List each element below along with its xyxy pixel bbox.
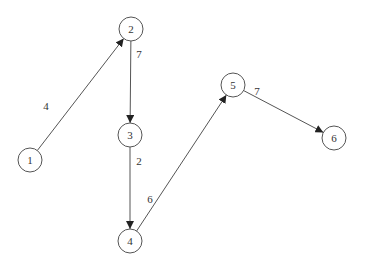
node-5: 5 [221,73,245,97]
node-label: 5 [230,79,236,91]
node-label: 2 [128,23,134,35]
graph-canvas: 47267 123456 [0,0,366,271]
node-3: 3 [118,123,142,147]
edges-layer: 47267 [37,39,323,231]
edge-weight-label: 6 [147,193,153,205]
node-1: 1 [18,148,42,172]
edge-1-2 [37,39,123,151]
edge-weight-label: 4 [43,100,49,112]
node-2: 2 [119,17,143,41]
edge-4-5 [137,95,227,231]
node-label: 4 [127,235,133,247]
edge-5-6 [244,91,324,133]
node-6: 6 [322,126,346,150]
edge-weight-label: 2 [136,155,142,167]
edge-2-3 [130,41,131,123]
node-label: 1 [27,154,33,166]
node-label: 6 [331,132,337,144]
node-label: 3 [127,129,133,141]
edge-weight-label: 7 [254,85,260,97]
nodes-layer: 123456 [18,17,346,253]
node-4: 4 [118,229,142,253]
edge-weight-label: 7 [136,48,142,60]
